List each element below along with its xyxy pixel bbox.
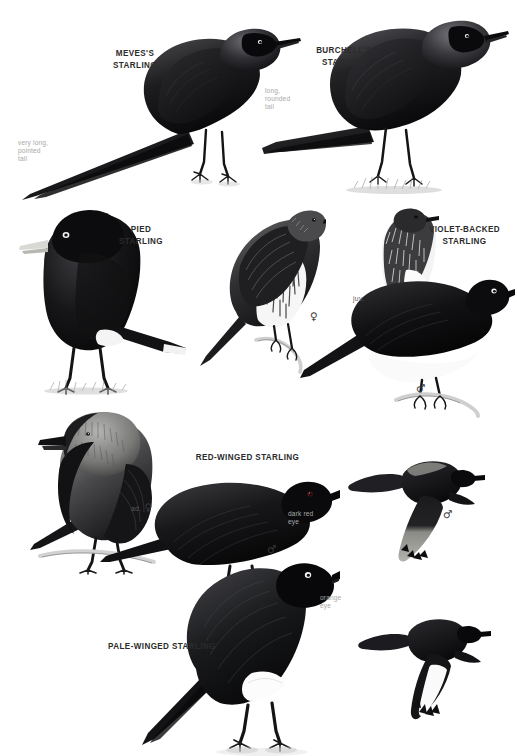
bird-pale-winged-starling-flight <box>355 610 505 725</box>
female-glyph: ♀ <box>310 310 318 322</box>
species-label-meves-starling: MEVES'S STARLING <box>89 48 181 71</box>
symbol-red-winged-flight-male: ♂ <box>443 508 453 520</box>
annotation-red-winged-eye: dark red eye <box>288 510 313 526</box>
symbol-violet-backed-juvenile: juv. <box>353 291 364 303</box>
age-text: ad. <box>131 505 141 512</box>
symbol-red-winged-male: ♂ <box>267 543 277 555</box>
symbol-violet-backed-male: ♂ <box>416 382 426 394</box>
species-label-red-winged-starling: RED-WINGED STARLING <box>188 452 307 464</box>
species-label-pale-winged-starling: PALE-WINGED STARLING <box>100 641 223 653</box>
male-glyph: ♂ <box>443 508 453 520</box>
male-glyph: ♂ <box>416 382 426 394</box>
symbol-red-winged-adult-female: ad. ♀ <box>131 501 153 513</box>
female-glyph: ♀ <box>145 501 153 513</box>
symbol-violet-backed-female: ♀ <box>310 310 318 322</box>
species-label-violet-backed-starling: VIOLET-BACKED STARLING <box>418 224 510 247</box>
bird-red-winged-starling-flight-male <box>345 458 505 568</box>
species-label-burchells-starling: BURCHELL'S STARLING <box>296 45 391 68</box>
annotation-meves-tail: very long, pointed tail <box>18 139 48 162</box>
field-guide-plate: MEVES'S STARLING BURCHELL'S STARLING PIE… <box>0 0 517 756</box>
bird-pale-winged-starling <box>140 565 340 755</box>
age-text: juv. <box>353 295 364 302</box>
annotation-burchell-tail: long, rounded tail <box>265 87 290 110</box>
bird-violet-backed-starling-male <box>300 278 515 418</box>
male-glyph: ♂ <box>267 543 277 555</box>
species-label-pied-starling: PIED STARLING <box>100 224 183 247</box>
annotation-pale-winged-eye: orange eye <box>320 594 341 610</box>
